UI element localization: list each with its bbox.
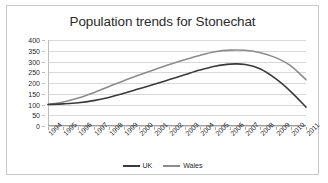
legend-swatch-wales bbox=[163, 165, 180, 167]
y-tick-mark bbox=[42, 51, 45, 52]
chart-container: Population trends for Stonechat 05010015… bbox=[6, 5, 319, 175]
y-tick-mark bbox=[42, 105, 45, 106]
y-tick-label: 300 bbox=[28, 58, 40, 65]
legend-label: Wales bbox=[183, 162, 202, 170]
y-tick-label: 350 bbox=[28, 47, 40, 54]
series-line-uk bbox=[48, 64, 306, 107]
y-axis: 050100150200250300350400 bbox=[7, 40, 45, 126]
y-tick-label: 200 bbox=[28, 80, 40, 87]
legend-label: UK bbox=[143, 162, 153, 170]
y-tick-mark bbox=[42, 115, 45, 116]
y-tick-label: 50 bbox=[32, 112, 40, 119]
x-axis: 1994199519961997199819992000200120022003… bbox=[48, 127, 306, 161]
y-tick-label: 0 bbox=[36, 123, 40, 130]
chart-legend: UKWales bbox=[7, 162, 318, 170]
y-tick-mark bbox=[42, 40, 45, 41]
y-tick-mark bbox=[42, 94, 45, 95]
legend-entry-uk[interactable]: UK bbox=[123, 162, 153, 170]
y-tick-mark bbox=[42, 72, 45, 73]
legend-swatch-uk bbox=[123, 165, 140, 167]
y-tick-mark bbox=[42, 62, 45, 63]
x-tick-label: 2011 bbox=[305, 121, 321, 137]
y-tick-label: 150 bbox=[28, 90, 40, 97]
y-tick-mark bbox=[42, 83, 45, 84]
y-tick-label: 250 bbox=[28, 69, 40, 76]
plot-area bbox=[48, 40, 306, 126]
y-tick-mark bbox=[42, 126, 45, 127]
y-tick-label: 100 bbox=[28, 101, 40, 108]
chart-title: Population trends for Stonechat bbox=[7, 14, 318, 29]
legend-entry-wales[interactable]: Wales bbox=[163, 162, 202, 170]
y-tick-label: 400 bbox=[28, 37, 40, 44]
series-lines bbox=[48, 40, 306, 126]
